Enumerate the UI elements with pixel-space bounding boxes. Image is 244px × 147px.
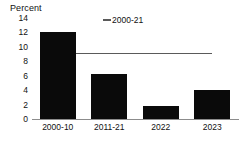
x-tick-label: 2023	[187, 122, 239, 133]
bar	[194, 90, 230, 119]
bar	[40, 32, 76, 119]
legend: 2000-21	[103, 15, 143, 25]
y-tick-label: 0	[12, 115, 28, 124]
legend-label: 2000-21	[112, 15, 143, 25]
bar	[91, 74, 127, 119]
y-tick-label: 10	[12, 42, 28, 51]
legend-line-marker-icon	[103, 19, 111, 21]
plot-area	[32, 18, 238, 119]
x-axis-line	[32, 119, 239, 120]
y-tick-label: 6	[12, 71, 28, 80]
bar	[143, 106, 179, 119]
x-tick-label: 2000-10	[32, 122, 84, 133]
y-tick-label: 2	[12, 100, 28, 109]
y-tick-label: 12	[12, 28, 28, 37]
x-axis-tick-labels: 2000-102011-2120222023	[32, 122, 238, 138]
y-tick-label: 8	[12, 57, 28, 66]
y-axis-tick-labels: 02468101214	[8, 0, 28, 147]
x-tick-label: 2022	[135, 122, 187, 133]
bar-chart: Percent 02468101214 2000-102011-21202220…	[0, 0, 244, 147]
y-tick-label: 4	[12, 86, 28, 95]
x-tick-label: 2011-21	[84, 122, 136, 133]
y-tick-label: 14	[12, 14, 28, 23]
